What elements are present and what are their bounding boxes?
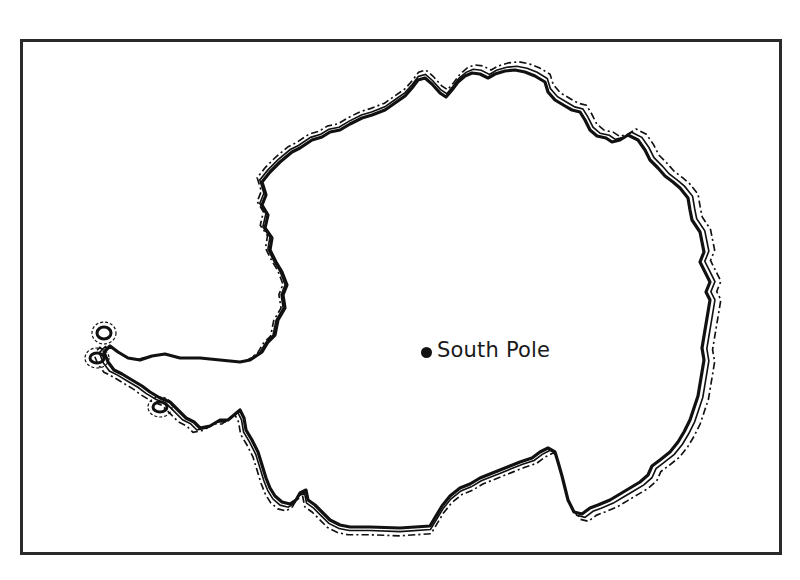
south-pole-label: South Pole (437, 338, 550, 362)
antarctica-map (0, 0, 800, 580)
dot-marker-icon (421, 347, 432, 358)
